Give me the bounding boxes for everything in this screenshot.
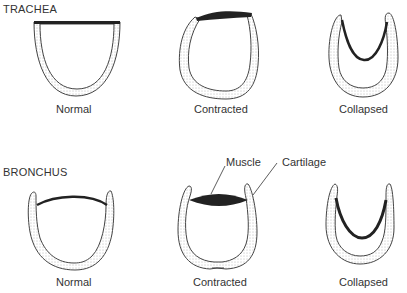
trachea-contracted-shape: [179, 11, 258, 99]
bronchus-normal-shape: [28, 191, 114, 270]
airway-diagram: [0, 0, 407, 293]
bronchus-contracted-label: Contracted: [193, 276, 247, 288]
muscle-leader-line: [211, 166, 225, 194]
bronchus-contracted-shape: [178, 163, 277, 269]
bronchus-collapsed-label: Collapsed: [339, 276, 388, 288]
muscle-band: [196, 11, 252, 21]
cartilage-annotation: Cartilage: [282, 156, 326, 168]
bronchus-collapsed-shape: [326, 184, 394, 264]
trachea-title: TRACHEA: [3, 3, 57, 15]
trachea-normal-shape: [34, 21, 120, 96]
bronchus-title: BRONCHUS: [3, 166, 68, 178]
muscle-band: [34, 21, 120, 24]
muscle-band: [189, 194, 248, 206]
muscle-band: [336, 198, 386, 238]
muscle-annotation: Muscle: [226, 156, 261, 168]
muscle-band: [342, 20, 387, 60]
bronchus-normal-label: Normal: [56, 276, 91, 288]
trachea-collapsed-shape: [329, 13, 398, 97]
trachea-normal-label: Normal: [56, 103, 91, 115]
trachea-collapsed-label: Collapsed: [339, 103, 388, 115]
muscle-band: [37, 197, 107, 205]
trachea-contracted-label: Contracted: [194, 103, 248, 115]
